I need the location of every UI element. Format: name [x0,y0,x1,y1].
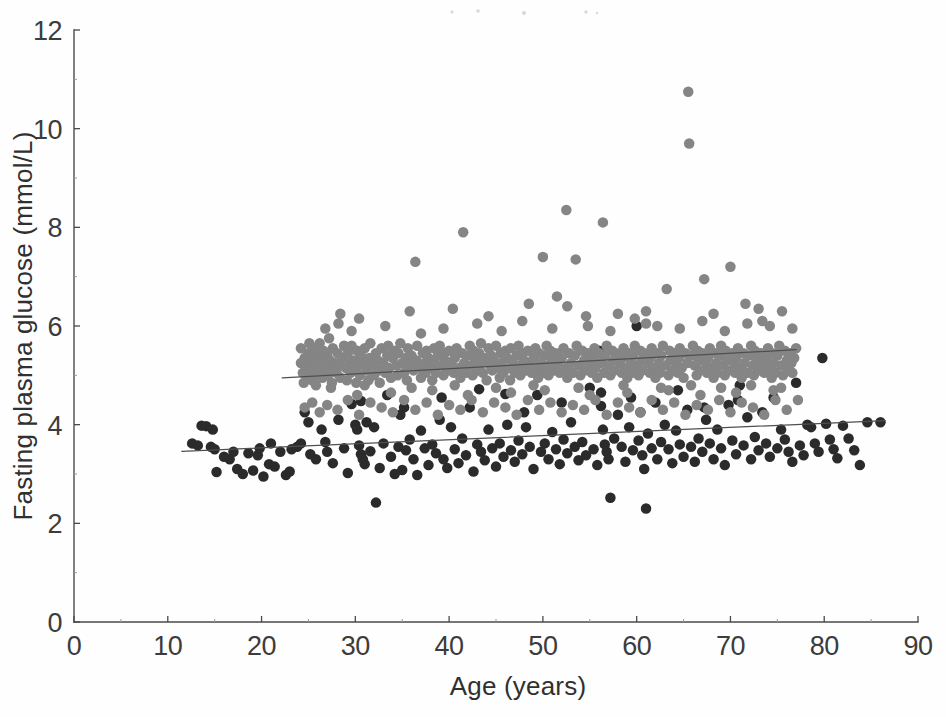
data-point [449,444,460,455]
data-point [540,385,551,396]
scan-speck [522,11,526,15]
data-point [791,377,802,388]
data-point [680,410,691,421]
data-point [461,450,472,461]
data-point [303,417,314,428]
data-point [401,445,412,456]
data-point [322,447,333,458]
data-point [780,434,791,445]
data-point [397,465,408,476]
data-point [528,380,539,391]
data-point [675,439,686,450]
data-point [630,313,641,324]
data-point [354,440,365,451]
data-point [427,385,438,396]
data-point [472,318,483,329]
data-point [579,405,590,416]
x-tick-label-90: 90 [903,631,932,661]
data-point [551,444,562,455]
data-point [817,353,828,364]
figure-container: 0102030405060708090024681012Age (years)F… [0,0,946,717]
data-point [438,323,449,334]
data-point [798,450,809,461]
data-point [238,469,249,480]
data-point [374,377,385,388]
data-point [455,405,466,416]
x-tick-label-80: 80 [810,631,839,661]
data-point [328,458,339,469]
data-point [703,405,714,416]
data-point [388,407,399,418]
data-point [725,262,736,273]
data-point [534,405,545,416]
x-tick-label-0: 0 [67,631,82,661]
data-point [570,254,581,265]
data-point [359,459,370,470]
data-point [332,405,343,416]
data-point [783,447,794,458]
data-point [585,390,596,401]
data-point [540,438,551,449]
data-point [791,343,802,354]
data-point [354,313,365,324]
data-point [506,445,517,456]
data-point [736,397,747,408]
data-point [731,449,742,460]
data-point [538,252,549,263]
data-point [446,422,457,433]
y-tick-label-0: 0 [47,608,62,638]
data-point [314,407,325,418]
data-point [656,382,667,393]
y-tick-label-12: 12 [33,16,62,46]
data-point [813,447,824,458]
data-point [374,463,385,474]
data-point [500,402,511,413]
data-point [669,397,680,408]
data-point [683,86,694,97]
data-point [781,405,792,416]
data-point [480,455,491,466]
data-point [552,291,563,302]
data-point [421,397,432,408]
data-point [770,395,781,406]
data-point [352,390,363,401]
data-point [444,400,455,411]
data-point [740,299,751,310]
data-point [693,433,704,444]
x-tick-label-30: 30 [341,631,370,661]
data-point [481,375,492,386]
data-point [316,424,327,435]
data-point [562,301,573,312]
data-point [448,303,459,314]
data-point [365,338,376,349]
data-point [410,257,421,268]
data-point [433,410,444,421]
x-tick-label-40: 40 [435,631,464,661]
data-point [667,458,678,469]
data-point [406,382,417,393]
y-tick-label-8: 8 [47,213,62,243]
data-point [359,380,370,391]
data-point [750,432,761,443]
data-point [423,460,434,471]
data-point [624,422,635,433]
data-point [618,380,629,391]
data-point [708,454,719,465]
data-point [436,392,447,403]
x-axis-title: Age (years) [450,671,587,701]
data-point [616,442,627,453]
data-point [663,444,674,455]
data-point [346,326,357,337]
data-point [483,311,494,322]
data-point [725,407,736,418]
data-point [609,433,620,444]
data-point [517,449,528,460]
data-point [716,443,727,454]
data-point [333,318,344,329]
data-point [605,326,616,337]
data-point [656,437,667,448]
data-point [556,407,567,418]
data-point [193,440,204,451]
data-point [561,205,572,216]
data-point [746,454,757,465]
